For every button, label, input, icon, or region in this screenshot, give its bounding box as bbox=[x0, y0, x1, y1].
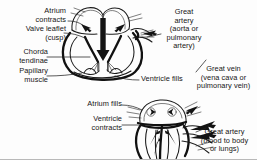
label-atrium-contracts: Atrium contracts bbox=[2, 7, 66, 24]
ventricle-septum-lower bbox=[160, 126, 162, 160]
label-great-vein: Great vein (vena cava or pulmonary vein) bbox=[190, 65, 257, 91]
av-valve-leaflet-left bbox=[85, 37, 98, 62]
av-valve-leaflet-right bbox=[108, 36, 121, 62]
atrium-inner-left bbox=[76, 10, 103, 30]
contraction-arrows bbox=[150, 127, 176, 156]
ventricle-inner-right-lower bbox=[176, 129, 180, 159]
label-atrium-fills: Atrium fills bbox=[62, 100, 122, 109]
flow-arrow-down-into-ventricle bbox=[97, 18, 110, 61]
figure-canvas: Atrium contracts Valve leaflet (cusp) Ch… bbox=[0, 0, 257, 160]
vein-stub-upper bbox=[128, 14, 142, 21]
label-ventricle-contracts: Ventricle contracts bbox=[62, 115, 122, 132]
label-great-artery-bottom: Great artery (blood to body or lungs) bbox=[192, 128, 257, 154]
label-chorda-tendinae: Chorda tendinae bbox=[2, 48, 48, 65]
label-great-artery-top: Great artery (aorta or pulmonary artery) bbox=[156, 8, 212, 51]
atrium-floor-left bbox=[72, 30, 97, 34]
label-valve-leaflet: Valve leaflet (cusp) bbox=[0, 25, 66, 42]
ventricle-wall-left-lower bbox=[136, 126, 142, 160]
leader-atrium-fills bbox=[122, 105, 142, 110]
atrium-fill-arrows bbox=[147, 108, 176, 116]
papillary-muscle-left bbox=[84, 69, 96, 74]
label-papillary-muscle: Papillary muscle bbox=[2, 67, 48, 84]
ventricle-inner-left-lower bbox=[146, 129, 151, 160]
semilunar-valve-cusp bbox=[136, 31, 138, 39]
cavity-edge-right-lower bbox=[167, 130, 169, 160]
upper-heart-figure bbox=[63, 8, 157, 80]
